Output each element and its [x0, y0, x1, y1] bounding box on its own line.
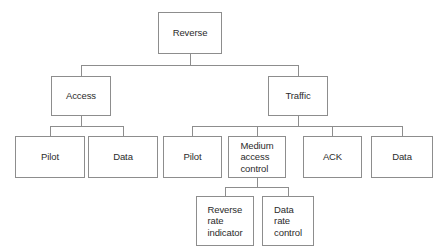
- node-t-mac[interactable]: Medium access control: [228, 136, 286, 178]
- node-label: Data: [392, 151, 412, 163]
- connector-c-access-stub: [81, 116, 82, 126]
- node-a-pilot[interactable]: Pilot: [15, 136, 85, 178]
- node-label: Reverse: [173, 27, 208, 39]
- connector-c-tmac-drop: [257, 126, 258, 136]
- connector-c-drc-drop: [288, 187, 289, 196]
- node-label: Pilot: [184, 151, 202, 163]
- connector-c-traffic-stub: [298, 116, 299, 126]
- node-label: Reverse rate indicator: [207, 204, 242, 239]
- node-label: Pilot: [41, 151, 59, 163]
- node-m-drc[interactable]: Data rate control: [262, 196, 314, 246]
- node-access[interactable]: Access: [51, 76, 111, 116]
- node-m-rri[interactable]: Reverse rate indicator: [196, 196, 254, 246]
- node-t-data[interactable]: Data: [371, 136, 433, 178]
- connector-c-traffic-drop: [298, 65, 299, 76]
- connector-c-tpilot-drop: [192, 126, 193, 136]
- node-label: Traffic: [285, 90, 310, 102]
- connector-c-apilot-drop: [50, 126, 51, 136]
- connector-c-traffic-bus: [192, 126, 402, 127]
- node-label: Access: [66, 90, 96, 102]
- connector-c-rri-drop: [225, 187, 226, 196]
- connector-c-root-stub: [190, 54, 191, 65]
- connector-c-tdata-drop: [402, 126, 403, 136]
- connector-c-mac-bus: [225, 187, 288, 188]
- node-t-pilot[interactable]: Pilot: [163, 136, 222, 178]
- connector-c-root-bus: [81, 65, 298, 66]
- node-label: Data rate control: [274, 204, 302, 239]
- node-a-data[interactable]: Data: [88, 136, 158, 178]
- connector-c-access-drop: [81, 65, 82, 76]
- node-label: Medium access control: [240, 140, 273, 175]
- connector-c-adata-drop: [123, 126, 124, 136]
- node-label: Data: [113, 151, 133, 163]
- node-t-ack[interactable]: ACK: [303, 136, 362, 178]
- diagram-canvas: ReverseAccessTrafficPilotDataPilotMedium…: [0, 0, 446, 252]
- connector-c-access-bus: [50, 126, 123, 127]
- connector-c-tack-drop: [332, 126, 333, 136]
- connector-c-mac-stub: [257, 178, 258, 187]
- node-reverse[interactable]: Reverse: [158, 12, 222, 54]
- node-label: ACK: [323, 151, 342, 163]
- node-traffic[interactable]: Traffic: [268, 76, 328, 116]
